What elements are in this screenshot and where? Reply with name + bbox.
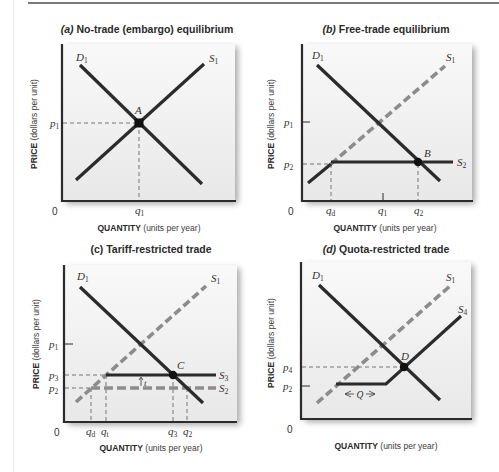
x-axis-label: QUANTITY (units per year) [100,443,203,453]
tick-q1: q1 [378,204,388,218]
plot-area [303,44,472,201]
panel-c: (c) Tariff-restricted trade t D1 S1 S3 S… [31,243,237,453]
label-point-d: D [400,350,409,362]
tick-p2: p2 [283,158,294,172]
tick-qd: qd [326,204,336,218]
tick-q1: q1 [135,204,145,218]
y-axis-label: PRICE (dollars per unit) [29,79,39,169]
trade-equilibrium-figure: (a) No-trade (embargo) equilibrium D1 S1… [0,0,499,472]
equilibrium-point-c [169,371,177,379]
equilibrium-point-b [414,158,422,166]
tick-p1: p1 [48,338,59,352]
tick-p1: p1 [49,117,60,131]
plot-area [63,44,235,201]
origin-zero: 0 [288,206,294,217]
tick-q2: q2 [183,425,193,439]
panel-a-title: (a) No-trade (embargo) equilibrium [61,23,234,35]
origin-zero: 0 [287,424,293,435]
x-axis-label: QUANTITY (units per year) [98,223,201,233]
tick-qt: qt [101,425,110,439]
tick-qd: qd [86,425,96,439]
origin-zero: 0 [54,427,60,438]
y-axis-label: PRICE (dollars per unit) [266,79,276,169]
equilibrium-point-d [400,363,408,371]
tick-p1: p1 [283,116,294,130]
label-point-a: A [134,104,142,116]
tick-q3: q3 [168,425,178,439]
origin-zero: 0 [52,206,58,217]
y-axis-label: PRICE (dollars per unit) [31,299,41,389]
tick-p2: p2 [48,382,59,396]
panel-b-title: (b) Free-trade equilibrium [322,23,449,35]
tick-p4: p4 [282,361,293,375]
equilibrium-point-a [135,119,144,128]
tick-p2: p2 [282,380,293,394]
panel-a: (a) No-trade (embargo) equilibrium D1 S1… [29,23,236,233]
tick-q2: q2 [414,204,424,218]
x-axis-label: QUANTITY (units per year) [334,223,437,233]
x-axis-label: QUANTITY (units per year) [335,441,438,451]
label-point-c: C [177,359,185,371]
label-quota-q: Q [357,390,364,400]
panel-d-title: (d) Quota-restricted trade [323,243,450,255]
panel-d: (d) Quota-restricted trade Q D1 S1 S4 D … [266,243,472,451]
panel-b: (b) Free-trade equilibrium D1 S1 S2 B p1… [266,23,473,233]
tick-p3: p3 [48,369,59,383]
y-axis-label: PRICE (dollars per unit) [266,298,276,388]
panel-c-title: (c) Tariff-restricted trade [90,243,211,255]
label-point-b: B [424,147,431,159]
